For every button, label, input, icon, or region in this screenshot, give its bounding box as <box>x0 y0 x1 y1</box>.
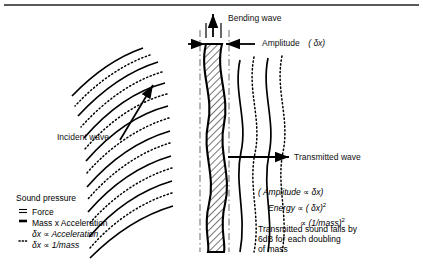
legend-item-label: Force <box>32 207 54 218</box>
equation-block: ( Amplitude ∝ δx) Energy ∝ ( δx)2 ∝ (1/m… <box>258 186 345 229</box>
transmitted-wave-label: Transmitted wave <box>294 152 361 163</box>
transmission-note: Transmitted sound falls by 6dB for each … <box>258 224 357 254</box>
legend-item-label: δx ∝ Acceleration <box>32 229 98 240</box>
legend-item-acceleration: δx ∝ Acceleration <box>16 229 108 240</box>
bending-wave-label: Bending wave <box>228 13 281 24</box>
note-line-3: of mass <box>258 244 357 254</box>
equation-line-1: ( Amplitude ∝ δx) <box>258 186 345 199</box>
legend-item-force: Force <box>16 207 108 218</box>
legend-heading: Sound pressure <box>16 193 108 204</box>
amplitude-label: Amplitude ( δx) <box>262 38 325 49</box>
incident-wave-label: Incident wave <box>57 132 109 143</box>
amplitude-value: ( δx) <box>308 38 325 48</box>
partition-wall <box>204 44 227 252</box>
legend-item-inverse-mass: δx ∝ 1/mass <box>16 240 108 251</box>
note-line-2: 6dB for each doubling <box>258 234 357 244</box>
equation-line-2: Energy ∝ ( δx)2 <box>258 199 345 214</box>
amplitude-text: Amplitude <box>262 38 300 48</box>
legend-item-label: δx ∝ 1/mass <box>32 240 79 251</box>
note-line-1: Transmitted sound falls by <box>258 224 357 234</box>
legend-item-label: Mass x Acceleration <box>32 218 108 229</box>
legend: Sound pressure Force Mass x Acceleration… <box>16 193 108 251</box>
legend-item-mass-acceleration: Mass x Acceleration <box>16 218 108 229</box>
